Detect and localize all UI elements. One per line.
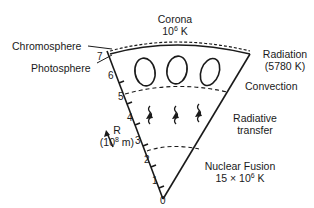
axis-tick-2: 2 (144, 155, 150, 165)
chromosphere-label: Chromosphere (12, 40, 81, 52)
axis-tick-5: 5 (118, 92, 124, 102)
nuclear-fusion-label: Nuclear Fusion 15 × 106 K (200, 160, 280, 184)
axis-tick-3: 3 (135, 136, 141, 146)
corona-label: Corona 106 K (150, 13, 200, 37)
axis-tick-7: 7 (97, 52, 103, 62)
chromosphere-leader (88, 46, 112, 49)
convection-cell-1 (133, 56, 158, 87)
convection-boundary (125, 86, 227, 94)
radiative-transfer-label: Radiative transfer (230, 112, 280, 136)
r-axis-label: R (108 m) (97, 124, 137, 148)
radiation-label: Radiation (5780 K) (260, 48, 310, 72)
axis-tick-6: 6 (108, 71, 114, 81)
photosphere-label: Photosphere (31, 62, 91, 74)
convection-cell-2 (165, 54, 190, 85)
core-boundary (147, 146, 199, 151)
convection-cell-3 (197, 56, 223, 88)
axis-tick-1: 1 (152, 176, 158, 186)
convection-label: Convection (245, 80, 298, 92)
axis-tick-4: 4 (127, 113, 133, 123)
axis-tick-0: 0 (160, 196, 166, 206)
